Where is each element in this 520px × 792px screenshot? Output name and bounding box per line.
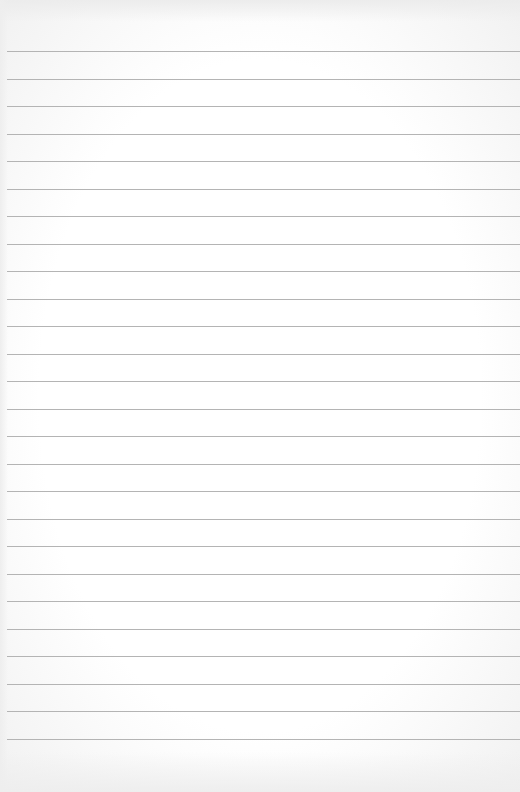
ruled-line (7, 601, 520, 602)
ruled-line (7, 271, 520, 272)
ruled-line (7, 464, 520, 465)
ruled-line (7, 436, 520, 437)
ruled-line (7, 574, 520, 575)
ruled-line (7, 134, 520, 135)
ruled-line (7, 161, 520, 162)
paper-bottom-edge (0, 752, 520, 792)
paper-top-edge (0, 0, 520, 22)
paper-left-edge (0, 0, 8, 792)
ruled-line (7, 629, 520, 630)
ruled-line (7, 684, 520, 685)
ruled-line (7, 79, 520, 80)
ruled-line (7, 409, 520, 410)
ruled-line (7, 326, 520, 327)
lined-paper (0, 0, 520, 792)
ruled-line (7, 244, 520, 245)
ruled-line (7, 299, 520, 300)
ruled-line (7, 519, 520, 520)
ruled-line (7, 656, 520, 657)
ruled-line (7, 491, 520, 492)
ruled-line (7, 189, 520, 190)
ruled-line (7, 51, 520, 52)
ruled-line (7, 216, 520, 217)
ruled-line (7, 106, 520, 107)
ruled-line (7, 354, 520, 355)
ruled-line (7, 711, 520, 712)
ruled-line (7, 381, 520, 382)
ruled-line (7, 739, 520, 740)
ruled-line (7, 546, 520, 547)
